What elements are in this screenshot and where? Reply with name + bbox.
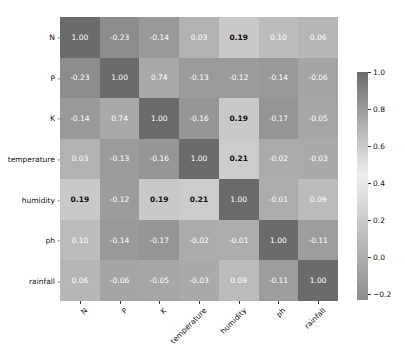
colorbar-tick [368,257,371,258]
colorbar-tick-label: 0.0 [373,253,385,262]
colorbar-tick [368,109,371,110]
x-axis-label: N [79,306,89,316]
y-axis-label: temperature [8,155,60,164]
x-axis-label: humidity [218,306,248,336]
heatmap-cell: -0.14 [100,220,140,261]
heatmap-cell: -0.12 [219,58,259,99]
heatmap-cell: 0.19 [219,17,259,58]
y-axis-label: P [50,73,60,82]
y-axis-label: N [49,33,60,42]
heatmap-cell: 0.19 [219,98,259,139]
heatmap-cell: -0.14 [60,98,100,139]
heatmap-cell: -0.05 [139,260,179,301]
x-axis-tick [199,301,200,304]
x-axis-tick [318,301,319,304]
heatmap-cell: 1.00 [60,17,100,58]
heatmap-cell: 1.00 [100,58,140,99]
heatmap-cell: -0.23 [100,17,140,58]
colorbar-tick [368,146,371,147]
heatmap-cell: -0.05 [298,98,338,139]
heatmap-cell: -0.11 [298,220,338,261]
heatmap-cell: -0.13 [100,139,140,180]
heatmap-cell: 0.21 [219,139,259,180]
heatmap-cell: 1.00 [179,139,219,180]
heatmap-cell: 0.74 [100,98,140,139]
colorbar-tick-label: 1.0 [373,68,385,77]
heatmap-cell: -0.01 [219,220,259,261]
heatmap-cell: 0.74 [139,58,179,99]
heatmap-cell: -0.16 [179,98,219,139]
heatmap-cell: 1.00 [139,98,179,139]
heatmap-cell: -0.03 [298,139,338,180]
heatmap-cell: -0.06 [100,260,140,301]
colorbar-tick-label: −0.2 [373,290,391,299]
heatmap-cell: -0.17 [259,98,299,139]
heatmap-cell: -0.16 [139,139,179,180]
x-axis-tick [120,301,121,304]
y-axis-label: rainfall [29,276,60,285]
heatmap-cell: 1.00 [259,220,299,261]
heatmap-cell: -0.14 [139,17,179,58]
x-axis-tick [159,301,160,304]
colorbar-tick-label: 0.2 [373,216,385,225]
heatmap-cell: 0.21 [179,179,219,220]
colorbar-tick-label: 0.6 [373,142,385,151]
x-axis-label: temperature [169,306,209,346]
x-axis-tick [80,301,81,304]
heatmap-cell: 0.09 [219,260,259,301]
heatmap-cell: -0.23 [60,58,100,99]
heatmap-cell: 0.03 [60,139,100,180]
x-axis-tick [278,301,279,304]
heatmap-cell: 0.19 [60,179,100,220]
x-axis-label: ph [275,306,288,319]
x-axis-label: rainfall [303,306,328,331]
heatmap-cell: -0.03 [179,260,219,301]
heatmap-cell: 0.06 [60,260,100,301]
heatmap-cell: -0.02 [259,139,299,180]
colorbar-tick [368,72,371,73]
heatmap-cell: -0.01 [259,179,299,220]
y-axis-label: K [50,114,60,123]
colorbar-tick [368,294,371,295]
colorbar-tick [368,183,371,184]
colorbar-tick [368,220,371,221]
heatmap-cell: 1.00 [219,179,259,220]
x-axis-tick [239,301,240,304]
correlation-heatmap-chart: 1.00-0.23-0.140.030.190.100.06-0.231.000… [0,0,405,354]
heatmap-grid: 1.00-0.23-0.140.030.190.100.06-0.231.000… [60,17,338,301]
heatmap-cell: 0.10 [60,220,100,261]
heatmap-cell: -0.02 [179,220,219,261]
heatmap-cell: 0.19 [139,179,179,220]
heatmap-cell: 0.06 [298,17,338,58]
heatmap-cell: 1.00 [298,260,338,301]
heatmap-cell: -0.11 [259,260,299,301]
heatmap-cell: 0.10 [259,17,299,58]
heatmap-cell: -0.14 [259,58,299,99]
colorbar [357,72,368,300]
colorbar-tick-label: 0.4 [373,179,385,188]
heatmap-cell: -0.17 [139,220,179,261]
heatmap-cell: -0.06 [298,58,338,99]
heatmap-cell: -0.12 [100,179,140,220]
heatmap-cell: 0.09 [298,179,338,220]
heatmap-cell: -0.13 [179,58,219,99]
y-axis-label: humidity [22,195,60,204]
heatmap-cell: 0.03 [179,17,219,58]
y-axis-label: ph [45,236,60,245]
colorbar-tick-label: 0.8 [373,105,385,114]
x-axis-label: K [159,306,169,316]
x-axis-label: P [119,306,129,316]
